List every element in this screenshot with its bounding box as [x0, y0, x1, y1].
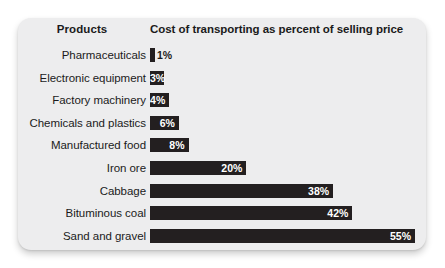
bar-value-label: 1% — [155, 48, 172, 62]
bar-track: 55% — [150, 226, 426, 246]
bar-track: 4% — [150, 90, 426, 110]
bar-row-label: Pharmaceuticals — [18, 45, 146, 65]
bar-track: 8% — [150, 135, 426, 155]
bar-row: Bituminous coal42% — [18, 203, 426, 223]
bar-row-label: Chemicals and plastics — [18, 113, 146, 133]
bar-value-label: 38% — [150, 184, 333, 198]
bar-row: Iron ore20% — [18, 158, 426, 178]
bar-row: Pharmaceuticals1% — [18, 45, 426, 65]
bar-row-label: Iron ore — [18, 158, 146, 178]
bar-track: 42% — [150, 203, 426, 223]
bar-value-label: 20% — [150, 161, 246, 175]
bar-row: Electronic equipment3% — [18, 68, 426, 88]
bar-track: 1% — [150, 45, 426, 65]
bar-value-label: 4% — [150, 93, 169, 107]
bar-row-label: Sand and gravel — [18, 226, 146, 246]
chart-header-row: Products Cost of transporting as percent… — [18, 23, 426, 42]
bar-track: 20% — [150, 158, 426, 178]
bar-value-label: 42% — [150, 206, 352, 220]
bar-row-label: Cabbage — [18, 181, 146, 201]
bar-value-label: 55% — [150, 229, 415, 243]
bar-value-label: 6% — [150, 116, 179, 130]
bar-row-label: Electronic equipment — [18, 68, 146, 88]
column-header-products: Products — [18, 23, 146, 35]
bar-value-label: 8% — [150, 138, 189, 152]
bar-row-label: Manufactured food — [18, 135, 146, 155]
bar-row: Factory machinery4% — [18, 90, 426, 110]
bar-track: 3% — [150, 68, 426, 88]
bar-value-label: 3% — [150, 71, 164, 85]
bar-row: Chemicals and plastics6% — [18, 113, 426, 133]
horizontal-bar-chart: Products Cost of transporting as percent… — [18, 18, 426, 250]
bar-row: Manufactured food8% — [18, 135, 426, 155]
bar-row-label: Factory machinery — [18, 90, 146, 110]
screenshot-stage: Products Cost of transporting as percent… — [0, 0, 445, 268]
bar-track: 6% — [150, 113, 426, 133]
chart-card: Products Cost of transporting as percent… — [18, 18, 426, 250]
column-header-cost: Cost of transporting as percent of selli… — [150, 23, 403, 35]
bar-row-label: Bituminous coal — [18, 203, 146, 223]
bar-row: Sand and gravel55% — [18, 226, 426, 246]
bar-row: Cabbage38% — [18, 181, 426, 201]
bar-track: 38% — [150, 181, 426, 201]
